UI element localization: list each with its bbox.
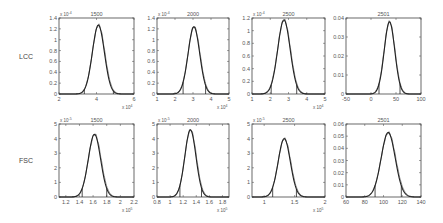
- y-tick-label: 0.01: [333, 72, 344, 78]
- subplot-lcc-2500: 25001234500.20.40.60.811.2x 10-4x 104: [242, 11, 326, 110]
- x-tick-label: 1: [250, 96, 253, 102]
- y-tick-label: 1: [247, 179, 250, 185]
- y-multiplier: x 10-4: [253, 11, 265, 17]
- x-multiplier: x 105: [313, 207, 324, 213]
- x-tick-label: 1.2: [62, 199, 70, 205]
- x-tick-label: 1: [155, 96, 158, 102]
- y-tick-label: 1.2: [49, 26, 57, 32]
- y-tick-label: 0: [152, 91, 155, 97]
- y-tick-label: 0.8: [49, 48, 57, 54]
- y-tick-label: 1.4: [147, 15, 155, 21]
- x-tick-label: 3: [191, 96, 194, 102]
- fitted-curve: [157, 27, 229, 94]
- fitted-curve: [346, 22, 421, 94]
- y-tick-label: 0: [247, 91, 250, 97]
- y-tick-label: 0: [341, 91, 344, 97]
- x-tick-label: 2: [119, 199, 122, 205]
- y-tick-label: 0.06: [333, 121, 344, 127]
- y-tick-label: 1: [54, 179, 57, 185]
- axes-frame: [157, 18, 229, 94]
- x-tick-label: 2: [323, 199, 326, 205]
- y-tick-label: 2: [152, 165, 155, 171]
- y-tick-label: 0.6: [49, 58, 57, 64]
- subplot-fsc-1500: 15001.21.41.61.822.2012345x 10-5x 105: [54, 117, 138, 213]
- x-tick-label: 1.4: [192, 199, 200, 205]
- fitted-curve: [346, 133, 421, 197]
- x-tick-label: 140: [416, 199, 425, 205]
- y-tick-label: 0.04: [333, 145, 344, 151]
- subplot-title: 2000: [187, 117, 199, 123]
- y-tick-label: 2: [54, 165, 57, 171]
- y-tick-label: 5: [247, 121, 250, 127]
- empirical-curve: [59, 134, 134, 197]
- axes-frame: [252, 18, 325, 94]
- y-tick-label: 4: [54, 136, 57, 142]
- y-tick-label: 0: [152, 194, 155, 200]
- y-tick-label: 1: [54, 37, 57, 43]
- subplot-title: 2501: [377, 11, 389, 17]
- subplot-title: 2000: [187, 11, 199, 17]
- subplot-title: 2500: [282, 117, 294, 123]
- x-tick-label: 1.8: [219, 199, 227, 205]
- x-tick-label: 1: [263, 199, 266, 205]
- y-tick-label: 0.8: [242, 40, 250, 46]
- y-tick-label: 3: [152, 150, 155, 156]
- x-tick-label: 3: [287, 96, 290, 102]
- y-tick-label: 0: [341, 194, 344, 200]
- y-tick-label: 4: [152, 136, 155, 142]
- y-tick-label: 2: [247, 165, 250, 171]
- x-tick-label: 100: [416, 96, 425, 102]
- empirical-curve: [157, 27, 229, 94]
- y-tick-label: 0.03: [333, 34, 344, 40]
- x-tick-label: 1: [169, 199, 172, 205]
- x-multiplier: x 105: [217, 207, 228, 213]
- y-multiplier: x 10-4: [60, 11, 72, 17]
- y-tick-label: 0.6: [147, 58, 155, 64]
- subplot-title: 1500: [90, 117, 102, 123]
- figure-canvas: 150024600.20.40.60.811.21.4x 10-4x 10420…: [0, 0, 443, 223]
- y-tick-label: 0.02: [333, 170, 344, 176]
- x-tick-label: 6: [132, 96, 135, 102]
- y-tick-label: 3: [54, 150, 57, 156]
- x-tick-label: 5: [323, 96, 326, 102]
- fitted-curve: [59, 25, 134, 94]
- fitted-curve: [157, 130, 229, 197]
- x-tick-label: 1.8: [103, 199, 111, 205]
- subplot-title: 2500: [282, 11, 294, 17]
- y-tick-label: 0.8: [147, 48, 155, 54]
- x-multiplier: x 104: [217, 104, 228, 110]
- y-tick-label: 0.4: [242, 66, 250, 72]
- y-tick-label: 0.2: [49, 80, 57, 86]
- y-multiplier: x 10-4: [158, 11, 170, 17]
- y-tick-label: 1: [152, 179, 155, 185]
- subplot-fsc-2500: 250011.52012345x 10-5x 105: [247, 117, 327, 213]
- y-tick-label: 0: [247, 194, 250, 200]
- x-multiplier: x 104: [313, 104, 324, 110]
- y-tick-label: 5: [54, 121, 57, 127]
- x-multiplier: x 104: [122, 104, 133, 110]
- x-tick-label: 1.4: [76, 199, 84, 205]
- x-tick-label: 1.6: [89, 199, 97, 205]
- y-multiplier: x 10-5: [60, 117, 72, 123]
- x-tick-label: 4: [95, 96, 98, 102]
- x-tick-label: 4: [305, 96, 308, 102]
- x-tick-label: 120: [398, 199, 407, 205]
- subplot-fsc-2501: 2501608010012014000.010.020.030.040.050.…: [333, 117, 425, 205]
- subplot-fsc-2000: 20000.811.21.41.61.8012345x 10-5x 105: [152, 117, 229, 213]
- x-tick-label: 100: [379, 199, 388, 205]
- empirical-curve: [252, 138, 325, 197]
- axes-frame: [252, 124, 325, 197]
- y-tick-label: 0.04: [333, 15, 344, 21]
- fitted-curve: [59, 134, 134, 197]
- subplot-lcc-2501: 2501-5005010000.010.020.030.04: [333, 11, 425, 102]
- x-tick-label: 2.2: [130, 199, 138, 205]
- y-tick-label: 0.6: [242, 53, 250, 59]
- axes-frame: [346, 124, 421, 197]
- subplot-lcc-1500: 150024600.20.40.60.811.21.4x 10-4x 104: [49, 11, 135, 110]
- subplot-title: 2501: [377, 117, 389, 123]
- y-tick-label: 0: [54, 194, 57, 200]
- x-tick-label: 4: [209, 96, 212, 102]
- y-tick-label: 0.2: [147, 80, 155, 86]
- x-tick-label: 0: [369, 96, 372, 102]
- y-tick-label: 4: [247, 136, 250, 142]
